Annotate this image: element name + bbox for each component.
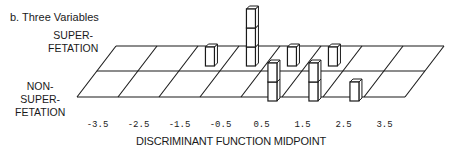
bar-unit-non-superfetation (350, 79, 362, 101)
bar-unit-superfetation (205, 44, 217, 66)
x-tick-label: 2.5 (335, 120, 351, 130)
bar-unit-non-superfetation (268, 60, 280, 82)
x-tick-label: -0.5 (210, 120, 232, 130)
chart-plot-area (0, 0, 462, 153)
x-tick-label: -3.5 (87, 120, 109, 130)
x-tick-label: -1.5 (169, 120, 191, 130)
x-tick-label: 1.5 (294, 120, 310, 130)
x-axis-label: DISCRIMINANT FUNCTION MIDPOINT (0, 135, 462, 147)
x-tick-label: 3.5 (376, 120, 392, 130)
x-tick-label: 0.5 (253, 120, 269, 130)
x-tick-label: -2.5 (128, 120, 150, 130)
bar-unit-superfetation (246, 6, 258, 28)
bar-unit-superfetation (287, 44, 299, 66)
bar-unit-non-superfetation (309, 60, 321, 82)
bar-unit-superfetation (328, 44, 340, 66)
